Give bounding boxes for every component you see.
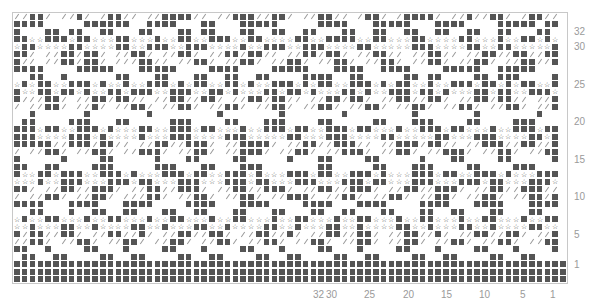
slash-icon bbox=[177, 58, 185, 66]
empty-cell bbox=[68, 246, 76, 254]
filled-square-icon bbox=[505, 66, 513, 74]
empty-cell bbox=[99, 73, 107, 81]
filled-square-icon bbox=[520, 21, 528, 29]
filled-square-icon bbox=[29, 141, 37, 149]
filled-square-icon bbox=[310, 268, 318, 276]
empty-cell bbox=[200, 103, 208, 111]
slash-icon bbox=[395, 238, 403, 246]
slash-icon bbox=[450, 141, 458, 149]
filled-square-icon bbox=[528, 276, 536, 284]
filled-square-icon bbox=[442, 276, 450, 284]
filled-square-icon bbox=[161, 81, 169, 89]
empty-cell bbox=[208, 246, 216, 254]
filled-square-icon bbox=[83, 21, 91, 29]
empty-cell bbox=[192, 28, 200, 36]
filled-square-icon bbox=[68, 88, 76, 96]
empty-cell bbox=[263, 66, 271, 74]
empty-cell bbox=[450, 111, 458, 119]
empty-cell bbox=[551, 28, 559, 36]
empty-cell bbox=[505, 163, 513, 171]
empty-cell bbox=[442, 208, 450, 216]
empty-cell bbox=[263, 156, 271, 164]
filled-square-icon bbox=[364, 81, 372, 89]
filled-square-icon bbox=[286, 261, 294, 269]
star-icon: ☆ bbox=[263, 133, 271, 141]
empty-cell bbox=[231, 246, 239, 254]
filled-square-icon bbox=[239, 148, 247, 156]
filled-square-icon bbox=[107, 216, 115, 224]
chart-row bbox=[13, 66, 567, 74]
slash-icon bbox=[29, 193, 37, 201]
slash-icon bbox=[114, 238, 122, 246]
filled-square-icon bbox=[380, 171, 388, 179]
filled-square-icon bbox=[481, 96, 489, 104]
filled-square-icon bbox=[161, 43, 169, 51]
star-icon: ☆ bbox=[192, 126, 200, 134]
empty-cell bbox=[559, 126, 567, 134]
star-icon: ☆ bbox=[481, 178, 489, 186]
filled-square-icon bbox=[333, 231, 341, 239]
filled-square-icon bbox=[153, 43, 161, 51]
slash-icon bbox=[419, 238, 427, 246]
filled-square-icon bbox=[52, 276, 60, 284]
filled-square-icon bbox=[239, 186, 247, 194]
filled-square-icon bbox=[512, 21, 520, 29]
filled-square-icon bbox=[310, 88, 318, 96]
star-icon: ☆ bbox=[99, 178, 107, 186]
empty-cell bbox=[388, 13, 396, 21]
chart-row bbox=[13, 13, 567, 21]
star-icon: ☆ bbox=[231, 223, 239, 231]
filled-square-icon bbox=[83, 66, 91, 74]
empty-cell bbox=[544, 118, 552, 126]
filled-square-icon bbox=[528, 253, 536, 261]
filled-square-icon bbox=[192, 208, 200, 216]
star-icon: ☆ bbox=[489, 88, 497, 96]
filled-square-icon bbox=[411, 13, 419, 21]
filled-square-icon bbox=[208, 216, 216, 224]
filled-square-icon bbox=[512, 66, 520, 74]
slash-icon bbox=[544, 193, 552, 201]
empty-cell bbox=[372, 66, 380, 74]
filled-square-icon bbox=[192, 148, 200, 156]
filled-square-icon bbox=[520, 58, 528, 66]
star-icon: ☆ bbox=[122, 88, 130, 96]
empty-cell bbox=[169, 201, 177, 209]
empty-cell bbox=[559, 246, 567, 254]
filled-square-icon bbox=[161, 171, 169, 179]
slash-icon bbox=[122, 58, 130, 66]
empty-cell bbox=[356, 163, 364, 171]
slash-icon bbox=[146, 51, 154, 59]
empty-cell bbox=[466, 208, 474, 216]
filled-square-icon bbox=[107, 21, 115, 29]
filled-square-icon bbox=[372, 276, 380, 284]
star-icon: ☆ bbox=[224, 88, 232, 96]
empty-cell bbox=[83, 253, 91, 261]
filled-square-icon bbox=[434, 246, 442, 254]
filled-square-icon bbox=[255, 51, 263, 59]
filled-square-icon bbox=[216, 111, 224, 119]
filled-square-icon bbox=[380, 201, 388, 209]
filled-square-icon bbox=[122, 178, 130, 186]
empty-cell bbox=[364, 118, 372, 126]
empty-cell bbox=[68, 21, 76, 29]
filled-square-icon bbox=[185, 43, 193, 51]
empty-cell bbox=[302, 208, 310, 216]
filled-square-icon bbox=[395, 223, 403, 231]
filled-square-icon bbox=[130, 208, 138, 216]
filled-square-icon bbox=[52, 28, 60, 36]
star-icon: ☆ bbox=[434, 178, 442, 186]
slash-icon bbox=[122, 103, 130, 111]
filled-square-icon bbox=[177, 51, 185, 59]
star-icon: ☆ bbox=[349, 126, 357, 134]
filled-square-icon bbox=[208, 126, 216, 134]
slash-icon bbox=[75, 148, 83, 156]
star-icon: ☆ bbox=[450, 178, 458, 186]
star-icon: ☆ bbox=[505, 223, 513, 231]
empty-cell bbox=[372, 148, 380, 156]
slash-icon bbox=[481, 148, 489, 156]
filled-square-icon bbox=[99, 193, 107, 201]
filled-square-icon bbox=[294, 88, 302, 96]
empty-cell bbox=[450, 73, 458, 81]
filled-square-icon bbox=[466, 13, 474, 21]
star-icon: ☆ bbox=[130, 81, 138, 89]
